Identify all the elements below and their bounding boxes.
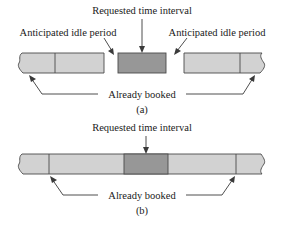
panel-a-already-booked-left-bar [18,53,104,73]
panel-a-already-booked-label: Already booked [108,89,176,100]
figure-container: Requested time interval Anticipated idle… [0,0,284,225]
panel-a-already-booked-right-bar [184,53,265,73]
panel-b-already-booked-label: Already booked [108,190,176,201]
panel-a-requested-arrow [139,19,145,53]
panel-a-idle-left-arrow [104,38,114,55]
panel-a-idle-left-label: Anticipated idle period [20,27,118,38]
panel-b-caption: (b) [136,205,149,217]
panel-b-requested-time-interval-block [124,154,168,174]
panel-a-idle-right-label: Anticipated idle period [169,27,267,38]
panel-a-requested-time-interval-block [118,53,166,73]
timeline-diagram: Requested time interval Anticipated idle… [0,0,284,225]
panel-b-requested-label: Requested time interval [92,122,192,133]
panel-a-requested-label: Requested time interval [92,5,192,16]
panel-a-caption: (a) [136,104,148,116]
panel-b-requested-arrow [143,136,149,154]
panel-a-idle-right-arrow [174,38,187,55]
